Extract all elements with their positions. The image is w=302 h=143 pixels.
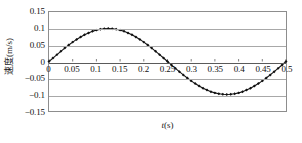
data-point-marker (91, 30, 94, 33)
data-point-marker (209, 90, 212, 93)
y-tick-label: −0.15 (25, 107, 45, 117)
gridline-horizontal (49, 46, 286, 47)
x-axis-title-unit: (s) (164, 120, 174, 130)
plot-area (48, 11, 287, 112)
y-axis-tick-labels: 0.150.10.050−0.05−0.1−0.15 (14, 11, 47, 112)
y-axis-title-text: 速度(m/s) (2, 38, 15, 75)
data-point-marker (241, 90, 244, 93)
gridline-horizontal (49, 96, 286, 97)
y-tick-label: 0.15 (30, 6, 45, 16)
y-tick-label: 0 (41, 57, 45, 67)
y-tick-label: −0.1 (29, 90, 45, 100)
gridline-horizontal (49, 29, 286, 30)
data-point-marker (213, 91, 216, 94)
data-point-marker (237, 91, 240, 94)
data-point-marker (233, 92, 236, 95)
data-point-marker (217, 92, 220, 95)
gridline-horizontal (49, 79, 286, 80)
y-tick-label: −0.05 (25, 73, 45, 83)
gridline-horizontal (49, 63, 286, 64)
y-tick-label: 0.05 (30, 40, 45, 50)
x-axis-title: t(s) (48, 120, 287, 130)
data-point-marker (123, 30, 126, 33)
velocity-time-chart: 速度(m/s) 0.150.10.050−0.05−0.1−0.15 00.05… (0, 0, 302, 143)
y-tick-label: 0.1 (34, 23, 45, 33)
